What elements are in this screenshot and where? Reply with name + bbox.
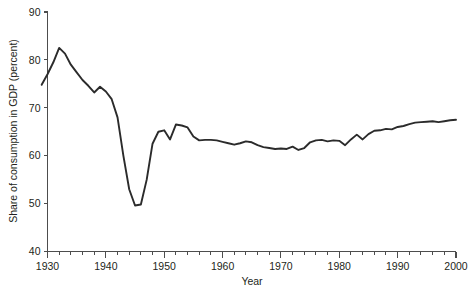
x-axis-tick-labels: 19301940195019601970198019902000: [36, 260, 468, 272]
x-axis-ticks: [48, 252, 457, 258]
x-tick-label-1950: 1950: [153, 260, 177, 272]
x-tick-label-1990: 1990: [386, 260, 410, 272]
y-axis-ticks: [44, 12, 48, 252]
x-tick-label-2000: 2000: [444, 260, 468, 272]
line-chart: 405060708090 193019401950196019701980199…: [0, 0, 474, 296]
y-tick-label-40: 40: [29, 245, 41, 257]
x-tick-label-1960: 1960: [211, 260, 235, 272]
y-tick-label-70: 70: [29, 102, 41, 114]
x-tick-label-1940: 1940: [94, 260, 118, 272]
x-tick-label-1980: 1980: [328, 260, 352, 272]
y-axis-tick-labels: 405060708090: [29, 6, 41, 258]
y-tick-label-90: 90: [29, 6, 41, 18]
chart-figure: 405060708090 193019401950196019701980199…: [0, 0, 474, 296]
x-tick-label-1930: 1930: [36, 260, 60, 272]
x-axis-group: 19301940195019601970198019902000: [36, 252, 468, 272]
y-tick-label-50: 50: [29, 197, 41, 209]
x-axis-title: Year: [241, 275, 263, 287]
consumption-share-line: [42, 48, 456, 206]
y-tick-label-60: 60: [29, 149, 41, 161]
x-tick-label-1970: 1970: [269, 260, 293, 272]
y-tick-label-80: 80: [29, 54, 41, 66]
y-axis-title: Share of consumption in GDP (percent): [7, 39, 19, 223]
y-axis-group: 405060708090: [29, 6, 48, 258]
